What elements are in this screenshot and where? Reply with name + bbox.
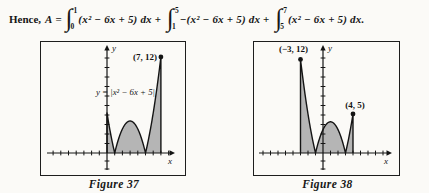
integral-3-lower-limit: 5 <box>280 23 284 31</box>
integral-term-2: ∫ 5 1 −(x² − 6x + 5) dx <box>164 6 260 32</box>
figure-37: xy(7, 12)y = |x² − 6x + 5| Figure 37 <box>40 41 188 190</box>
integral-2-integrand: −(x² − 6x + 5) dx <box>180 13 260 25</box>
textbook-page: Hence, A = ∫ 1 0 (x² − 6x + 5) dx + ∫ 5 … <box>0 0 429 193</box>
integral-1-integrand: (x² − 6x + 5) dx <box>78 13 152 25</box>
point-label: (7, 12) <box>133 52 157 62</box>
point-dot <box>159 55 164 60</box>
y-axis-label: y <box>111 43 116 53</box>
integral-1-limits: 1 0 <box>73 6 77 32</box>
x-axis-label: x <box>383 156 388 166</box>
x-axis-label: x <box>167 156 172 166</box>
function-label: y = |x² − 6x + 5| <box>95 87 155 97</box>
integral-2-limits: 5 1 <box>174 6 178 32</box>
figure-38-caption: Figure 38 <box>253 178 402 190</box>
equals-sign: = <box>55 13 61 25</box>
y-axis-arrow-icon <box>320 45 325 51</box>
point-label: (4, 5) <box>345 100 365 110</box>
integral-3-integrand: (x² − 6x + 5) dx. <box>288 13 364 25</box>
integral-1: ∫ 1 0 <box>66 6 77 32</box>
integral-3: ∫ 7 5 <box>275 6 286 32</box>
figure-38-plot: xy(−3, 12)(4, 5) <box>253 41 400 176</box>
figure-38: xy(−3, 12)(4, 5) Figure 38 <box>253 41 402 190</box>
shaded-region <box>107 57 161 153</box>
integral-2-upper-limit: 5 <box>175 7 179 15</box>
integral-term-3: ∫ 7 5 (x² − 6x + 5) dx. <box>272 6 364 32</box>
hence-label: Hence, <box>9 13 41 25</box>
y-axis-label: y <box>327 43 332 53</box>
figure-37-plot: xy(7, 12)y = |x² − 6x + 5| <box>40 41 186 176</box>
x-axis-arrow-icon <box>170 150 176 155</box>
point-label: (−3, 12) <box>279 44 308 54</box>
plus-sign: + <box>263 13 269 25</box>
area-variable: A <box>45 13 52 25</box>
plus-sign: + <box>155 13 161 25</box>
integral-2-lower-limit: 1 <box>172 23 176 31</box>
point-dot <box>298 57 303 62</box>
equation-line: Hence, A = ∫ 1 0 (x² − 6x + 5) dx + ∫ 5 … <box>9 1 429 36</box>
integral-3-limits: 7 5 <box>282 6 286 32</box>
figure-37-caption: Figure 37 <box>40 178 188 190</box>
integral-2: ∫ 5 1 <box>167 6 178 32</box>
point-dot <box>351 112 356 117</box>
y-axis-arrow-icon <box>104 45 109 51</box>
integral-1-upper-limit: 1 <box>74 7 78 15</box>
integral-term-1: ∫ 1 0 (x² − 6x + 5) dx <box>63 6 152 32</box>
integral-1-lower-limit: 0 <box>71 23 75 31</box>
x-axis-arrow-icon <box>387 150 393 155</box>
integral-3-upper-limit: 7 <box>283 7 287 15</box>
